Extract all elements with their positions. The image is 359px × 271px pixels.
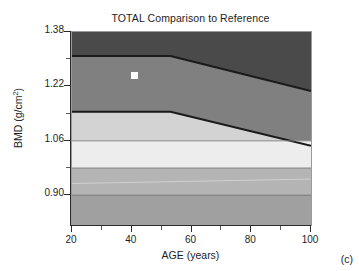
chart-title: TOTAL Comparison to Reference: [71, 12, 310, 24]
panel-label: (c): [341, 253, 353, 265]
x-tick-label-3: 80: [245, 234, 256, 245]
y-tick-3: [64, 194, 70, 195]
y-axis-title: BMD (g/cm2): [12, 58, 24, 178]
x-tick-0: [71, 226, 72, 232]
band-below-minus-1sd: [72, 195, 311, 225]
y-axis-line: [70, 31, 71, 225]
y-tick-minor-2: [66, 167, 70, 168]
y-tick-0: [64, 31, 70, 32]
x-tick-minor-2: [220, 226, 221, 230]
patient-measurement-marker[interactable]: [131, 72, 138, 79]
y-tick-1: [64, 85, 70, 86]
y-tick-2: [64, 140, 70, 141]
plot-area: [71, 31, 312, 226]
y-tick-minor-1: [66, 113, 70, 114]
y-axis-title-base: BMD (g/cm: [12, 96, 24, 149]
x-axis-title: AGE (years): [71, 249, 310, 261]
x-tick-label-4: 100: [302, 234, 319, 245]
x-tick-1: [131, 226, 132, 232]
x-tick-3: [250, 226, 251, 232]
x-tick-minor-1: [161, 226, 162, 230]
y-tick-label-3: 0.90: [30, 187, 64, 198]
x-tick-minor-3: [280, 226, 281, 230]
y-axis-title-exponent: 2: [11, 91, 20, 95]
x-tick-label-1: 40: [125, 234, 136, 245]
y-axis-title-close: ): [12, 88, 24, 92]
y-tick-label-0: 1.38: [30, 24, 64, 35]
reference-band-chart: [72, 32, 311, 225]
y-tick-label-1: 1.22: [30, 78, 64, 89]
y-tick-label-2: 1.06: [30, 133, 64, 144]
x-tick-2: [191, 226, 192, 232]
x-tick-label-2: 60: [185, 234, 196, 245]
y-axis-tick-labels: 1.381.221.060.90: [0, 0, 64, 271]
x-tick-4: [310, 226, 311, 232]
figure-panel: TOTAL Comparison to Reference 1.381.221.…: [0, 0, 359, 271]
band-mean-band-light: [72, 141, 311, 168]
y-tick-minor-0: [66, 58, 70, 59]
x-tick-label-0: 20: [65, 234, 76, 245]
x-tick-minor-0: [101, 226, 102, 230]
